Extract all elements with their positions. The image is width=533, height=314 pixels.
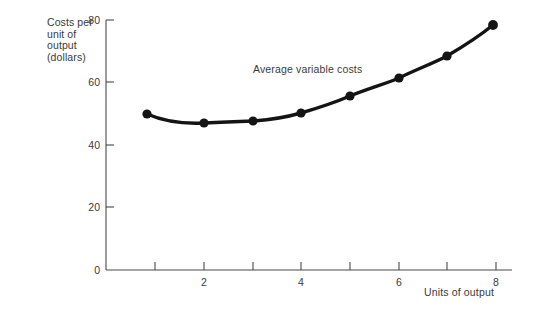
x-axis-ticks [155, 262, 496, 270]
y-tick-label-20: 20 [74, 201, 100, 213]
y-tick-label-80: 80 [74, 14, 100, 26]
y-tick-label-60: 60 [74, 76, 100, 88]
y-axis-title-line-3: output [47, 39, 77, 51]
x-tick-label-4: 4 [291, 276, 311, 288]
chart-figure: Costs per unit of output (dollars) 80 60… [0, 0, 533, 314]
series-annotation-label: Average variable costs [253, 64, 362, 76]
y-tick-label-0: 0 [74, 264, 100, 276]
y-axis-title-line-4: (dollars) [47, 51, 86, 63]
y-axis-ticks [106, 20, 114, 207]
y-tick-label-40: 40 [74, 139, 100, 151]
y-axis-title-line-2: unit of [47, 28, 76, 40]
x-tick-label-2: 2 [194, 276, 214, 288]
x-tick-label-6: 6 [389, 276, 409, 288]
x-axis-title: Units of output [424, 287, 494, 299]
